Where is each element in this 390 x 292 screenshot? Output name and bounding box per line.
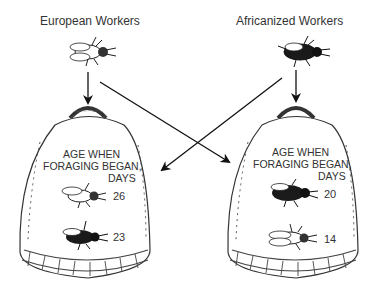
right-hive-caption-line2: FORAGING BEGAN, (253, 158, 352, 170)
africanized-workers-label: Africanized Workers (236, 14, 343, 28)
africanized-bee-icon (278, 36, 330, 67)
left-hive-africanized-value: 23 (113, 231, 125, 243)
right-hive-european-value: 14 (324, 233, 336, 245)
right-hive-africanized-value: 20 (324, 188, 336, 200)
right-hive-caption-line3: DAYS (318, 170, 346, 182)
left-hive-caption-line3: DAYS (108, 172, 136, 184)
diagram-canvas (0, 0, 390, 292)
left-hive-european-value: 26 (113, 190, 125, 202)
left-hive-caption-line2: FORAGING BEGAN, (43, 160, 142, 172)
european-workers-label: European Workers (40, 14, 140, 28)
right-hive-caption-line1: AGE WHEN (272, 146, 329, 158)
left-hive-caption-line1: AGE WHEN (63, 148, 120, 160)
european-bee-icon (70, 37, 116, 66)
